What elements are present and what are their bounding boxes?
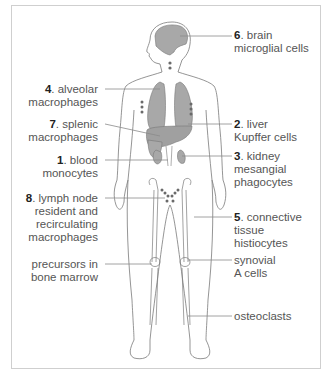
label-text: . lymph node	[32, 192, 98, 204]
label-blood-monocytes: 1. blood monocytes	[42, 154, 98, 180]
label-alveolar-macrophages: 4. alveolar macrophages	[28, 83, 98, 109]
label-text: synovial	[234, 254, 276, 266]
label-text: bone marrow	[31, 271, 98, 283]
label-text: macrophages	[28, 96, 98, 108]
label-kidney-mesangial: 3. kidney mesangial phagocytes	[234, 150, 293, 189]
label-text: . liver	[240, 118, 267, 130]
label-brain-microglial: 6. brain microglial cells	[234, 29, 309, 55]
label-text: . alveolar	[51, 83, 98, 95]
leg-bones	[149, 178, 191, 325]
label-text: . kidney	[240, 150, 280, 162]
label-text: tissue	[234, 224, 264, 236]
leader-lines	[105, 36, 232, 316]
label-text: A cells	[234, 267, 267, 279]
kidney-left	[153, 150, 162, 164]
label-lymph-node: 8. lymph node resident and recirculating…	[26, 192, 98, 244]
right-lung	[175, 82, 193, 130]
label-text: microglial cells	[234, 42, 309, 54]
label-text: osteoclasts	[234, 310, 292, 322]
label-text: . splenic	[56, 118, 98, 130]
label-text: . blood	[63, 154, 98, 166]
label-text: monocytes	[42, 167, 98, 179]
label-text: mesangial	[234, 163, 286, 175]
label-text: histiocytes	[234, 237, 288, 249]
label-synovial-cells: synovial A cells	[234, 254, 276, 280]
label-text: . brain	[240, 29, 272, 41]
label-text: . connective	[240, 211, 301, 223]
label-text: macrophages	[28, 231, 98, 243]
label-text: Kupffer cells	[234, 131, 297, 143]
brain-organ	[155, 25, 188, 55]
label-text: precursors in	[32, 258, 98, 270]
body-outline	[114, 22, 226, 359]
kidney-right	[177, 150, 185, 163]
label-liver-kupffer: 2. liver Kupffer cells	[234, 118, 297, 144]
label-text: macrophages	[28, 131, 98, 143]
label-bone-marrow: precursors in bone marrow	[31, 258, 98, 284]
label-connective-tissue: 5. connective tissue histiocytes	[234, 211, 302, 250]
label-text: phagocytes	[234, 176, 293, 188]
label-splenic-macrophages: 7. splenic macrophages	[28, 118, 98, 144]
label-text: resident and	[35, 205, 98, 217]
label-osteoclasts: osteoclasts	[234, 310, 292, 323]
label-text: recirculating	[36, 218, 98, 230]
